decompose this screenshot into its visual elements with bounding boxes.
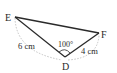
- triangle-figure: E F D 6 cm 100° 4 cm: [0, 0, 117, 73]
- angle-d-label: 100°: [58, 40, 73, 49]
- vertex-label-f: F: [101, 29, 107, 40]
- side-df-length-label: 4 cm: [81, 46, 98, 56]
- side-ed-length-label: 6 cm: [18, 41, 35, 51]
- angle-d-marker: [59, 50, 70, 53]
- side-ef: [15, 17, 99, 33]
- vertex-label-d: D: [62, 61, 69, 72]
- vertex-label-e: E: [5, 12, 11, 23]
- side-ed: [15, 17, 65, 57]
